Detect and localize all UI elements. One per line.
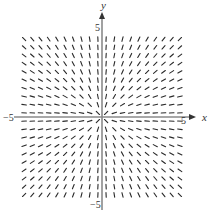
- slope-segment: [128, 113, 133, 114]
- slope-segment: [162, 169, 165, 172]
- slope-segment: [55, 70, 58, 73]
- slope-segment: [47, 137, 51, 139]
- slope-segment: [88, 103, 91, 106]
- slope-segment: [98, 78, 99, 83]
- slope-segment: [129, 128, 133, 130]
- slope-segment: [170, 46, 173, 49]
- slope-segment: [38, 96, 42, 97]
- slope-segment: [137, 78, 140, 81]
- slope-segment: [47, 54, 50, 57]
- slope-segment: [170, 37, 173, 40]
- slope-segment: [81, 168, 83, 172]
- slope-segment: [64, 160, 67, 164]
- slope-segment: [47, 37, 50, 41]
- slope-segment: [178, 153, 182, 155]
- slope-segment: [170, 169, 174, 172]
- slope-segment: [30, 169, 34, 172]
- slope-segment: [170, 96, 174, 97]
- slope-segment: [39, 46, 42, 49]
- slope-segment: [73, 193, 75, 197]
- slope-segment: [79, 121, 84, 122]
- slope-segment: [178, 177, 182, 180]
- slope-segment: [30, 137, 34, 138]
- slope-segment: [97, 135, 98, 140]
- slope-segment: [22, 137, 26, 138]
- slope-segment: [114, 37, 115, 42]
- slope-segment: [129, 160, 131, 164]
- slope-segment: [153, 129, 157, 130]
- slope-segment: [22, 62, 26, 65]
- slope-segment: [81, 45, 82, 49]
- slope-segment: [170, 71, 174, 74]
- slope-segment: [162, 71, 166, 74]
- x-max-tick-label: 5: [181, 115, 186, 126]
- slope-segment: [31, 177, 34, 180]
- slope-segment: [89, 86, 91, 90]
- slope-segment: [64, 62, 67, 66]
- slope-segment: [89, 160, 90, 164]
- slope-segment: [56, 37, 58, 41]
- slope-segment: [153, 96, 157, 98]
- slope-segment: [169, 129, 174, 130]
- slope-segment: [178, 96, 182, 97]
- slope-segment: [178, 37, 181, 40]
- slope-segment: [112, 112, 116, 113]
- slope-segment: [22, 96, 26, 97]
- slope-segment: [72, 62, 74, 66]
- slope-segment: [137, 70, 140, 74]
- slope-segment: [122, 45, 123, 49]
- slope-segment: [63, 95, 67, 97]
- slope-segment: [80, 128, 84, 130]
- slope-segment: [80, 86, 83, 90]
- slope-segment: [121, 95, 124, 98]
- slope-segment: [154, 62, 157, 65]
- slope-segment: [38, 104, 43, 105]
- slope-segment: [178, 193, 181, 196]
- slope-segment: [170, 137, 174, 138]
- slope-segment: [105, 127, 106, 131]
- slope-segment: [121, 104, 125, 106]
- slope-segment: [39, 71, 43, 74]
- slope-segment: [89, 37, 90, 42]
- slope-segment: [170, 79, 174, 81]
- slope-segment: [153, 137, 157, 139]
- slope-segment: [98, 143, 99, 148]
- slope-segment: [80, 136, 83, 139]
- slope-segment: [178, 71, 182, 73]
- slope-segment: [22, 54, 26, 57]
- slope-segment: [178, 79, 182, 81]
- slope-segment: [145, 87, 149, 89]
- slope-segment: [129, 152, 132, 156]
- slope-segment: [63, 104, 67, 105]
- slope-segment: [170, 87, 174, 89]
- slope-segment: [120, 112, 125, 113]
- slope-segment: [122, 70, 124, 74]
- slope-segment: [145, 137, 149, 139]
- slope-segment: [153, 79, 157, 82]
- slope-segment: [71, 95, 75, 98]
- slope-segment: [63, 129, 67, 130]
- slope-segment: [114, 61, 115, 65]
- slope-segment: [89, 144, 91, 148]
- slope-segment: [146, 62, 149, 65]
- slope-segment: [114, 78, 115, 82]
- slope-segment: [130, 185, 132, 189]
- slope-segment: [22, 145, 26, 147]
- slope-segment: [72, 160, 74, 164]
- slope-segment: [30, 161, 34, 164]
- slope-field-plot: x y −5 5 5 −5: [0, 0, 215, 216]
- slope-segment: [22, 129, 27, 130]
- slope-segment: [129, 136, 133, 139]
- slope-segment: [39, 177, 42, 180]
- slope-segment: [137, 113, 142, 114]
- slope-segment: [122, 53, 123, 57]
- slope-segment: [63, 113, 68, 114]
- slope-segment: [97, 127, 98, 131]
- slope-segment: [145, 144, 149, 146]
- slope-segment: [79, 112, 84, 113]
- slope-segment: [106, 152, 107, 157]
- slope-segment: [154, 161, 158, 164]
- slope-segment: [73, 37, 75, 41]
- slope-segment: [137, 129, 141, 130]
- slope-segment: [63, 152, 66, 155]
